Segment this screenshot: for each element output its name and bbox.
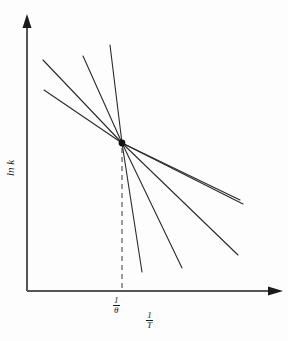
y-axis-label-text: ln k <box>5 160 16 176</box>
x-tick-denominator: θ <box>113 305 120 315</box>
isokinetic-point-marker <box>119 140 126 147</box>
x-axis-label: 1 T <box>146 311 153 331</box>
x-axis-label-denominator: T <box>146 320 153 330</box>
plot-background <box>0 0 288 341</box>
plot-canvas <box>0 0 288 341</box>
x-tick-label-isokinetic: 1 θ <box>113 296 120 316</box>
x-axis-label-numerator: 1 <box>146 311 153 320</box>
isokinetic-plot-figure: ln k 1 θ 1 T <box>0 0 288 341</box>
x-tick-numerator: 1 <box>113 296 120 305</box>
y-axis-label: ln k <box>2 138 18 198</box>
